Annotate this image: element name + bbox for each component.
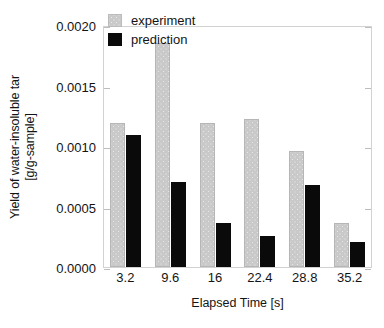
- y-axis-tick-label: 0.0005: [56, 201, 96, 214]
- y-axis-tick-label: 0.0000: [56, 262, 96, 275]
- bar-prediction-35-2: [350, 242, 365, 267]
- y-axis-title-line1: Yield of water-insoluble tar: [8, 75, 22, 219]
- x-axis-tick-labels: 3.29.61622.428.835.2: [103, 271, 372, 289]
- y-axis-tick-label: 0.0020: [56, 20, 96, 33]
- bar-experiment-22-4: [244, 119, 259, 267]
- bar-group: [149, 27, 194, 267]
- bar-experiment-28-8: [289, 151, 304, 267]
- bar-prediction-9-6: [171, 182, 186, 267]
- bar-chart-figure: Yield of water-insoluble tar [g/g-sample…: [0, 0, 384, 328]
- bar-group: [104, 27, 149, 267]
- bar-group: [328, 27, 373, 267]
- bar-group: [283, 27, 328, 267]
- bar-experiment-9-6: [155, 43, 170, 267]
- y-axis-tick-label: 0.0010: [56, 141, 96, 154]
- bar-group: [194, 27, 239, 267]
- bar-prediction-28-8: [305, 185, 320, 267]
- bar-experiment-35-2: [334, 223, 349, 267]
- plot-inner: [104, 27, 371, 267]
- chart-legend: experiment prediction: [108, 12, 195, 47]
- x-axis-tick-label: 3.2: [116, 271, 134, 285]
- bar-experiment-16: [200, 123, 215, 267]
- bar-experiment-3-2: [110, 123, 125, 267]
- bar-group: [239, 27, 284, 267]
- legend-label-experiment: experiment: [131, 14, 195, 27]
- x-axis-tick-label: 9.6: [161, 271, 179, 285]
- legend-label-prediction: prediction: [131, 33, 187, 46]
- legend-item-experiment: experiment: [108, 12, 195, 28]
- bar-prediction-16: [216, 223, 231, 267]
- bar-prediction-22-4: [260, 236, 275, 267]
- x-axis-title: Elapsed Time [s]: [103, 296, 372, 310]
- legend-swatch-experiment-icon: [108, 14, 122, 27]
- y-axis-tick-mark: [104, 269, 110, 270]
- bar-prediction-3-2: [126, 135, 141, 267]
- x-axis-tick-label: 16: [208, 271, 222, 285]
- x-axis-tick-label: 28.8: [292, 271, 317, 285]
- y-axis-tick-label: 0.0015: [56, 80, 96, 93]
- legend-item-prediction: prediction: [108, 31, 195, 47]
- x-axis-tick-label: 22.4: [247, 271, 272, 285]
- y-axis-tick-labels: 0.00000.00050.00100.00150.0020: [28, 26, 100, 268]
- legend-swatch-prediction-icon: [108, 33, 122, 46]
- plot-area: [103, 26, 372, 268]
- x-axis-tick-label: 35.2: [337, 271, 362, 285]
- y-axis-tick-mark-right: [365, 269, 371, 270]
